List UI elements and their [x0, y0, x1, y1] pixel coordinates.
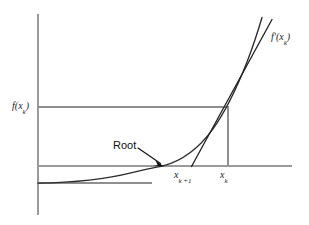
newton-method-figure: f(xk) f'(xk) Root xk +1 xk — [0, 0, 309, 225]
root-arrow-shaft — [138, 148, 161, 164]
root-label: Root — [113, 140, 136, 151]
fprime-xk-label: f'(xk) — [271, 32, 290, 45]
fxk-close-paren: ) — [26, 100, 29, 111]
tangent-line — [192, 20, 273, 167]
x-k-plus-1-label: xk +1 — [174, 170, 192, 183]
fxk-subscript: k — [23, 108, 26, 116]
figure-canvas — [0, 0, 309, 225]
root-arrow-head — [153, 160, 164, 166]
fxk-var: x — [18, 100, 22, 111]
fprime-subscript: k — [284, 39, 287, 47]
fxk-label: f(xk) — [12, 101, 29, 114]
xk-subscript: k — [224, 177, 227, 185]
x-k-label: xk — [220, 170, 228, 183]
xk1-subscript: k +1 — [178, 177, 191, 185]
fprime-close-paren: ) — [287, 31, 290, 42]
